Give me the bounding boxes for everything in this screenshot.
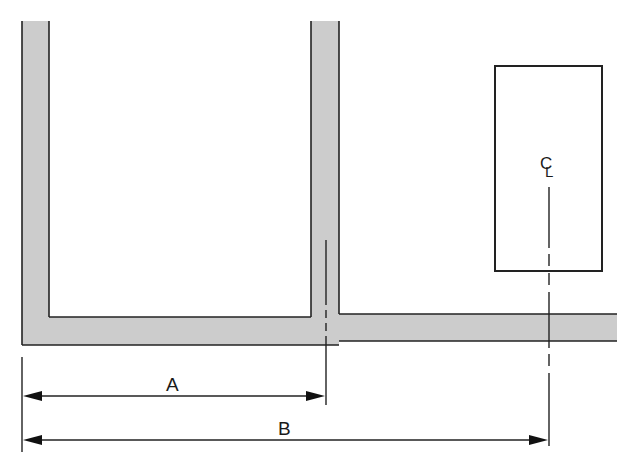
dimension-label-b: B: [278, 419, 291, 438]
arrowhead-left-icon: [23, 435, 42, 445]
arrowhead-right-icon: [529, 435, 548, 445]
arrowhead-right-icon: [306, 391, 325, 401]
centerline-symbol-l: L: [545, 164, 553, 179]
wall-fill: [22, 21, 617, 345]
arrowhead-left-icon: [23, 391, 42, 401]
wall-structure: [22, 21, 617, 345]
dimension-diagram: [0, 0, 626, 464]
centerline-symbol-icon: C L: [540, 155, 560, 185]
dimension-label-a: A: [166, 375, 179, 394]
